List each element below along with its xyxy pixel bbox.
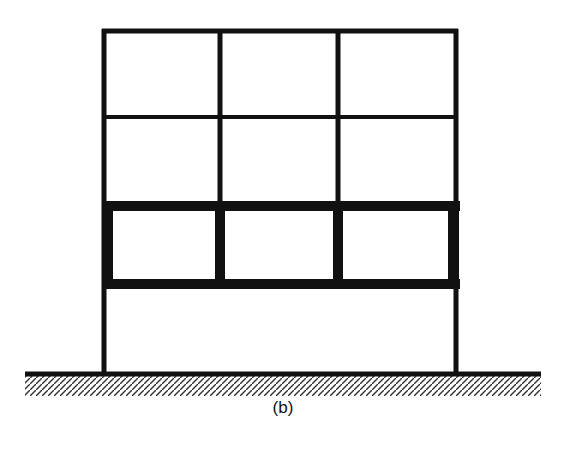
frame-beams [102, 31, 458, 117]
stiff-column-right [448, 201, 459, 289]
stiff-column-inner-2 [333, 201, 343, 289]
stiff-storey [102, 201, 460, 289]
frame-diagram [0, 0, 566, 461]
ground [25, 374, 541, 396]
stiff-beam-top [102, 201, 460, 211]
stiff-beam-bottom [102, 279, 460, 289]
stiff-column-inner-1 [215, 201, 225, 289]
figure-caption: (b) [0, 398, 566, 418]
ground-hatching [25, 376, 541, 396]
stiff-column-left [102, 201, 113, 289]
